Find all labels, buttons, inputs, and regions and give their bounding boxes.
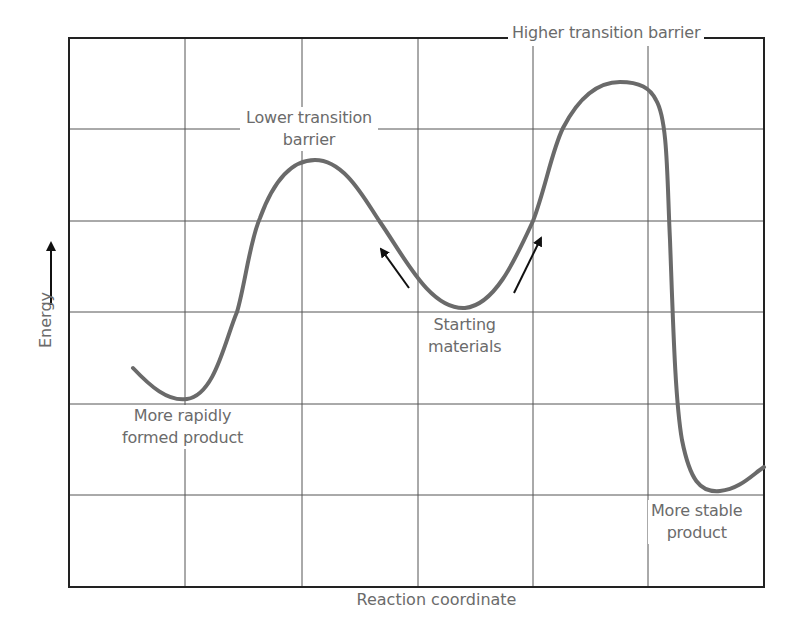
arrow-to-higher-barrier xyxy=(514,238,541,293)
label-more-stable-product: More stable product xyxy=(648,500,745,544)
label-line: materials xyxy=(428,336,501,358)
label-line: barrier xyxy=(246,129,372,151)
label-line: Lower transition xyxy=(246,107,372,129)
label-line: More stable xyxy=(651,500,742,522)
label-higher-transition-barrier: Higher transition barrier xyxy=(508,20,704,46)
y-axis-label: Energy xyxy=(36,292,55,348)
label-lower-transition-barrier: Lower transition barrier xyxy=(240,107,378,151)
x-axis-label: Reaction coordinate xyxy=(0,590,803,609)
label-line: Higher transition barrier xyxy=(512,20,700,46)
label-more-rapidly-formed-product: More rapidly formed product xyxy=(118,405,247,449)
energy-diagram xyxy=(0,0,803,643)
label-line: Starting xyxy=(428,314,501,336)
label-starting-materials: Starting materials xyxy=(424,314,505,358)
label-line: More rapidly xyxy=(122,405,243,427)
label-line: formed product xyxy=(122,427,243,449)
label-line: product xyxy=(651,522,742,544)
arrow-to-lower-barrier xyxy=(381,249,409,288)
